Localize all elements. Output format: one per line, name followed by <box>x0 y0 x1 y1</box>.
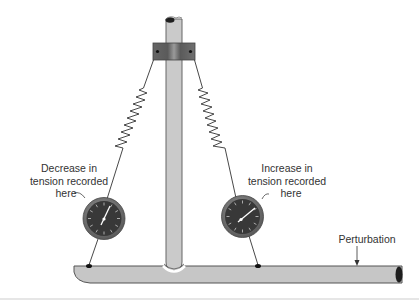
clamp <box>153 43 195 60</box>
left-anchor-bolt <box>86 264 92 268</box>
label-decrease-tension: Decrease in tension recorded here <box>14 162 124 200</box>
clamp-screw-right <box>189 50 192 53</box>
label-decrease-line-1: Decrease in <box>14 162 124 175</box>
label-decrease-line-2: tension recorded <box>14 175 124 188</box>
horizontal-beam <box>74 266 403 283</box>
label-increase-line-2: tension recorded <box>232 175 342 188</box>
label-perturbation: Perturbation <box>330 233 404 246</box>
tension-gauge-right <box>222 196 264 238</box>
bottom-divider <box>0 298 419 300</box>
right-anchor-bolt <box>255 264 261 268</box>
label-increase-tension: Increase in tension recorded here <box>232 162 342 200</box>
label-increase-line-3: here <box>232 187 342 200</box>
clamp-screw-left <box>156 50 159 53</box>
perturbation-arrow <box>355 246 360 266</box>
beam-end-cap <box>396 267 403 283</box>
label-increase-line-1: Increase in <box>232 162 342 175</box>
label-decrease-line-3: here <box>14 187 124 200</box>
apparatus-diagram <box>0 0 419 301</box>
tension-gauge-left <box>83 198 125 240</box>
